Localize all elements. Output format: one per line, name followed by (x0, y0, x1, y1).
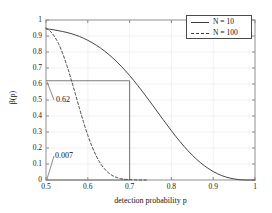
legend: N = 10 N = 100 (186, 15, 252, 39)
y-tick-label: 0.9 (22, 32, 42, 40)
y-tick-label: 0.1 (22, 160, 42, 168)
annotation-0-62: 0.62 (56, 96, 70, 104)
y-tick-label: 0.2 (22, 144, 42, 152)
x-tick-label: 0.7 (118, 183, 142, 191)
legend-line-sample-dashed (191, 33, 209, 34)
legend-label-n-100: N = 100 (213, 29, 238, 37)
x-axis-label: detection probability p (46, 196, 255, 205)
legend-line-sample-solid (191, 22, 209, 23)
annotation-0-007: 0.007 (55, 152, 73, 160)
x-tick-label: 0.8 (159, 183, 183, 191)
annotation-leader-line-1 (47, 156, 54, 179)
y-tick-label: 0.6 (22, 80, 42, 88)
y-tick-label: 1 (22, 16, 42, 24)
y-axis-label: β(p) (8, 78, 17, 118)
annotation-leader-line-0 (47, 82, 54, 100)
x-tick-label: 1 (243, 183, 267, 191)
y-tick-label: 0.8 (22, 48, 42, 56)
x-tick-label: 0.9 (201, 183, 225, 191)
legend-entry-n-10: N = 10 (187, 17, 251, 28)
series-line-1 (46, 29, 255, 180)
figure-canvas: 00.10.20.30.40.50.60.70.80.91 0.50.60.70… (0, 0, 272, 213)
y-tick-label: 0.7 (22, 64, 42, 72)
x-tick-label: 0.5 (34, 183, 58, 191)
y-tick-label: 0.3 (22, 128, 42, 136)
legend-label-n-10: N = 10 (213, 18, 234, 26)
y-tick-label: 0.5 (22, 96, 42, 104)
x-tick-label: 0.6 (76, 183, 100, 191)
y-tick-label: 0.4 (22, 112, 42, 120)
data-series (46, 28, 255, 180)
legend-entry-n-100: N = 100 (187, 28, 251, 39)
annotation-leader-lines (47, 82, 54, 179)
